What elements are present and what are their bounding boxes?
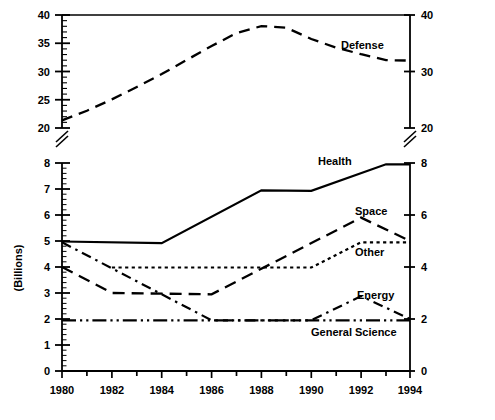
upper-ytick-right-20: 20 <box>421 122 433 134</box>
xtick-1986: 1986 <box>199 384 223 396</box>
lower-ytick-6: 6 <box>44 209 50 221</box>
lower-ytick-right-2: 2 <box>421 313 427 325</box>
y-axis-title: (Billions) <box>12 244 24 291</box>
lower-ytick-right-6: 6 <box>421 209 427 221</box>
lower-ytick-0: 0 <box>44 365 50 377</box>
lower-ytick-1: 1 <box>44 339 50 351</box>
lower-ytick-8: 8 <box>44 157 50 169</box>
lower-ytick-7: 7 <box>44 183 50 195</box>
line-chart-svg: 40 35 30 25 20 40 30 20 Defense <box>0 0 495 420</box>
upper-ytick-20: 20 <box>38 122 50 134</box>
series-label-other: Other <box>355 246 385 258</box>
series-label-energy: Energy <box>357 289 395 301</box>
series-label-defense: Defense <box>341 39 384 51</box>
series-label-general-science: General Science <box>311 326 397 338</box>
lower-ytick-5: 5 <box>44 235 50 247</box>
upper-ytick-30: 30 <box>38 66 50 78</box>
xtick-1980: 1980 <box>50 384 74 396</box>
series-label-space: Space <box>355 205 387 217</box>
lower-ytick-right-4: 4 <box>421 261 428 273</box>
lower-ytick-4: 4 <box>44 261 51 273</box>
lower-ytick-2: 2 <box>44 313 50 325</box>
xtick-1990: 1990 <box>299 384 323 396</box>
upper-ytick-right-30: 30 <box>421 66 433 78</box>
xtick-1984: 1984 <box>149 384 174 396</box>
lower-ytick-right-8: 8 <box>421 157 427 169</box>
chart-container: 40 35 30 25 20 40 30 20 Defense <box>0 0 495 420</box>
lower-ytick-right-0: 0 <box>421 365 427 377</box>
xtick-1988: 1988 <box>249 384 273 396</box>
upper-ytick-40: 40 <box>38 9 50 21</box>
xtick-1992: 1992 <box>349 384 373 396</box>
upper-ytick-35: 35 <box>38 37 50 49</box>
series-label-health: Health <box>318 155 352 167</box>
xtick-1982: 1982 <box>100 384 124 396</box>
lower-ytick-3: 3 <box>44 287 50 299</box>
xtick-1994: 1994 <box>398 384 423 396</box>
upper-ytick-right-40: 40 <box>421 9 433 21</box>
upper-ytick-25: 25 <box>38 94 50 106</box>
